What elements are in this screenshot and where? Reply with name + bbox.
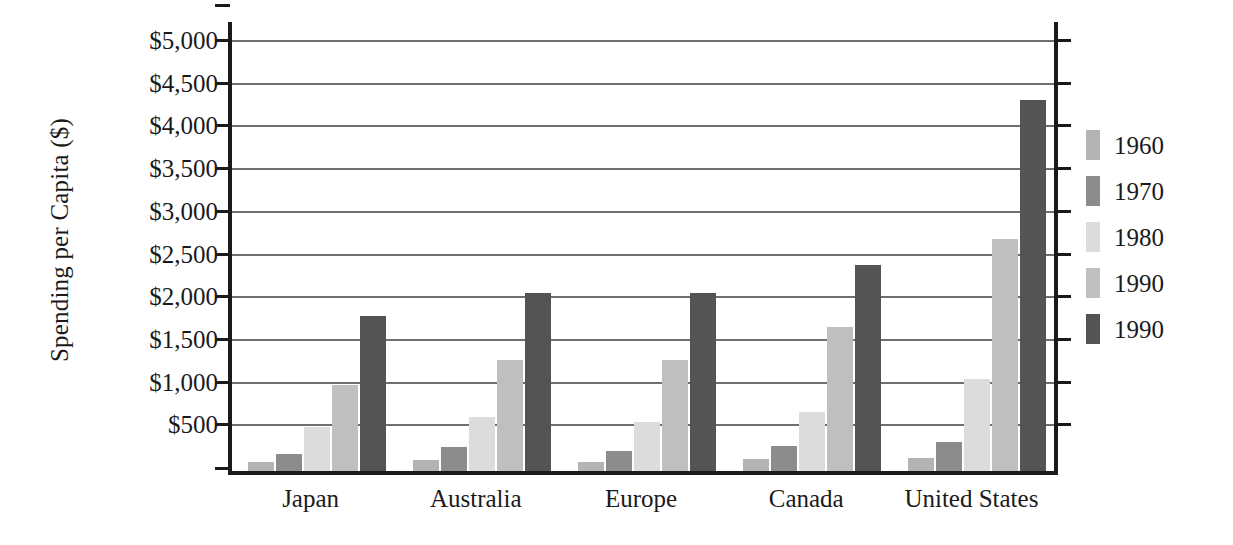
y-axis-tick-right — [1056, 423, 1071, 426]
legend-swatch — [1086, 222, 1100, 252]
y-axis-tick-right — [1056, 210, 1071, 213]
x-axis-category-label: Europe — [558, 486, 723, 511]
bar — [992, 239, 1018, 471]
y-axis-tick-label: $1,500 — [70, 327, 218, 352]
bar — [413, 460, 439, 471]
y-axis-tick-label: $2,000 — [70, 284, 218, 309]
bar — [469, 417, 495, 471]
y-axis-tick-label: $3,000 — [70, 199, 218, 224]
legend-label: 1990 — [1114, 317, 1164, 342]
bar — [743, 459, 769, 471]
bar — [771, 446, 797, 471]
bar-chart: Spending per Capita ($) $5,000$4,500$4,0… — [0, 0, 1233, 545]
legend-item: 1970 — [1086, 168, 1226, 214]
x-axis-category-label: Australia — [393, 486, 558, 511]
plot-area — [228, 22, 1058, 475]
bars-layer — [230, 22, 1056, 471]
bar — [497, 360, 523, 471]
bar — [578, 462, 604, 471]
bar-group — [230, 22, 395, 471]
y-axis-tick-right — [1056, 82, 1071, 85]
y-axis-tick-right — [1056, 381, 1071, 384]
y-axis-tick-label: $2,500 — [70, 242, 218, 267]
bar — [360, 316, 386, 471]
x-axis-line — [228, 471, 1058, 475]
bar — [248, 462, 274, 471]
bar — [799, 412, 825, 471]
bar — [1020, 100, 1046, 471]
bar — [332, 385, 358, 471]
y-axis-tick-label: $3,500 — [70, 156, 218, 181]
legend-item: 1990 — [1086, 260, 1226, 306]
y-axis-tick-right — [1056, 39, 1071, 42]
bar — [276, 454, 302, 471]
bar — [441, 447, 467, 471]
bar — [690, 293, 716, 471]
legend-label: 1970 — [1114, 179, 1164, 204]
bar — [606, 451, 632, 471]
bar — [662, 360, 688, 471]
bar-group — [395, 22, 560, 471]
y-axis-tick-right — [1056, 167, 1071, 170]
legend-label: 1990 — [1114, 271, 1164, 296]
bar-group — [560, 22, 725, 471]
y-axis-tick-right — [1056, 124, 1071, 127]
legend-label: 1960 — [1114, 133, 1164, 158]
legend: 19601970198019901990 — [1086, 122, 1226, 352]
x-axis-category-label: Canada — [724, 486, 889, 511]
bar — [827, 327, 853, 471]
legend-label: 1980 — [1114, 225, 1164, 250]
y-axis-tick-label: $4,500 — [70, 71, 218, 96]
bar — [964, 379, 990, 471]
bar-group — [891, 22, 1056, 471]
x-axis-category-label: Japan — [228, 486, 393, 511]
y-axis-tick-label: $1,000 — [70, 370, 218, 395]
legend-item: 1960 — [1086, 122, 1226, 168]
bar — [908, 458, 934, 471]
x-axis-category-labels: JapanAustraliaEuropeCanadaUnited States — [228, 486, 1058, 526]
bar — [936, 442, 962, 471]
bar — [855, 265, 881, 471]
y-axis-tick-label: $4,000 — [70, 113, 218, 138]
x-axis-category-label: United States — [889, 486, 1054, 511]
bar — [525, 293, 551, 471]
bar — [304, 427, 330, 471]
legend-item: 1980 — [1086, 214, 1226, 260]
y-axis-tick-right — [1056, 253, 1071, 256]
bar — [634, 422, 660, 471]
y-axis-tick-label: $5,000 — [70, 28, 218, 53]
legend-item: 1990 — [1086, 306, 1226, 352]
y-axis-tick-right — [1056, 295, 1071, 298]
legend-swatch — [1086, 176, 1100, 206]
legend-swatch — [1086, 314, 1100, 344]
legend-swatch — [1086, 130, 1100, 160]
y-axis-tick-right — [1056, 338, 1071, 341]
legend-swatch — [1086, 268, 1100, 298]
y-axis-tick-label: $500 — [70, 412, 218, 437]
bar-group — [726, 22, 891, 471]
y-axis-end-tick — [215, 4, 230, 7]
y-axis-tick-labels: $5,000$4,500$4,000$3,500$3,000$2,500$2,0… — [70, 0, 218, 545]
